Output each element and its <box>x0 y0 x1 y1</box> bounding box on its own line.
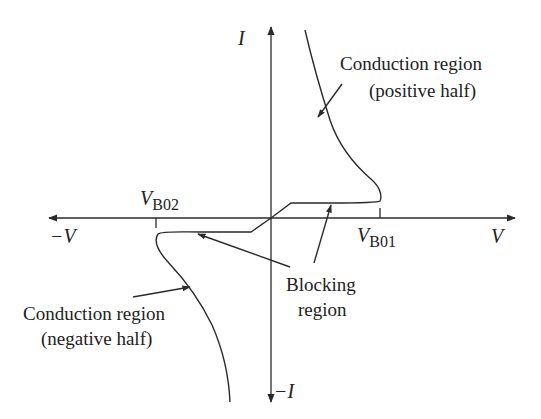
v-negative-label: −V <box>50 225 78 247</box>
vb01-sub: B01 <box>369 233 396 250</box>
i-positive-label: I <box>237 27 246 49</box>
blocking-arrow-negative <box>198 234 290 267</box>
blocking-label-line2: region <box>298 299 347 320</box>
positive-conduction-label-line1: Conduction region <box>340 53 482 74</box>
blocking-label-line1: Blocking <box>286 274 356 295</box>
vb02-label: VB02 <box>140 187 179 213</box>
positive-conduction-arrow <box>318 84 342 117</box>
vb02-sub: B02 <box>152 196 179 213</box>
v-positive-label: V <box>491 225 506 247</box>
positive-conduction-label-line2: (positive half) <box>369 80 476 102</box>
vb01-label: VB01 <box>357 224 396 250</box>
negative-conduction-arrow <box>133 287 190 297</box>
negative-conduction-curve <box>156 218 271 402</box>
negative-conduction-label-line1: Conduction region <box>23 303 165 324</box>
blocking-arrow-positive <box>314 205 331 263</box>
negative-conduction-label-line2: (negative half) <box>41 328 152 350</box>
i-negative-label: −I <box>274 380 295 402</box>
vi-characteristic-diagram: I −I V −V VB02 VB01 Conduction region (p… <box>0 0 541 419</box>
